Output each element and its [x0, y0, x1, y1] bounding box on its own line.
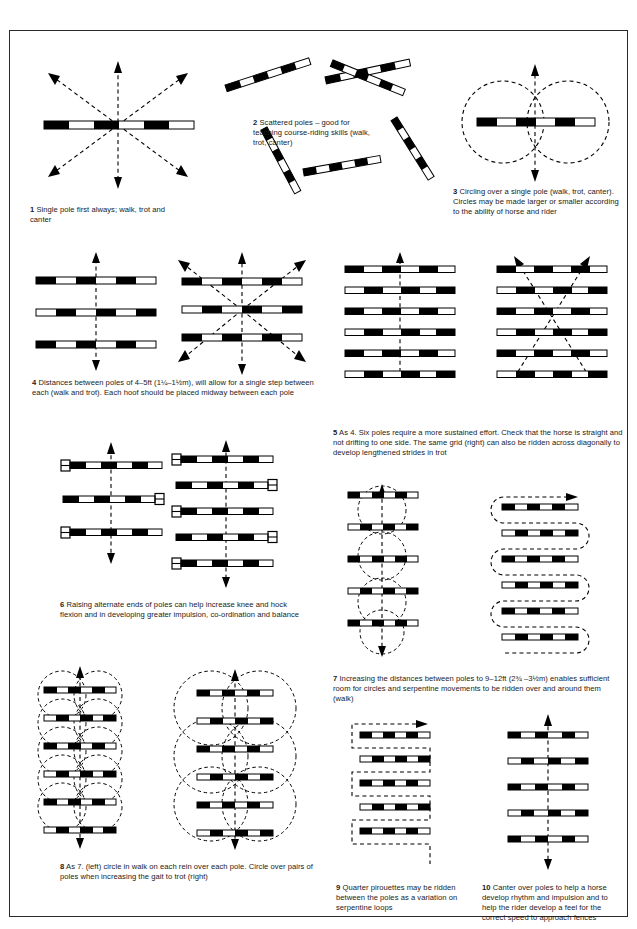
- pole-row-1: [502, 504, 578, 510]
- pole-row-3: [182, 334, 302, 341]
- figure-3-caption-text: Circling over a single pole (walk, trot,…: [453, 187, 619, 216]
- pole-row-4: [348, 588, 418, 594]
- page-rule-left: [9, 30, 10, 916]
- scattered-pole-5: [303, 155, 381, 175]
- pole-row-3: [345, 308, 455, 315]
- pole-row-3: [36, 341, 156, 348]
- pole-row-5: [502, 608, 578, 614]
- figure-6-caption-text: Raising alternate ends of poles can help…: [60, 600, 299, 619]
- figure-5-diagram-right: [492, 250, 617, 380]
- raised-pole-row-1: [61, 460, 162, 471]
- pole-row-3: [44, 743, 116, 749]
- pole-row-4: [508, 810, 588, 816]
- pole-row-1: [182, 278, 302, 285]
- center-line-arrow: [378, 484, 386, 657]
- pole-row-4: [197, 774, 273, 780]
- page-rule-top: [9, 30, 628, 31]
- pole-row-4: [497, 329, 607, 336]
- raised-pole-row-5: [172, 558, 273, 569]
- pole-row-1: [497, 266, 607, 273]
- figure-8-diagram-left: [22, 665, 152, 850]
- pole-row-2: [502, 530, 578, 536]
- pole-row-5: [345, 350, 455, 357]
- pole-row-4: [345, 329, 455, 336]
- scattered-pole-6: [391, 117, 434, 180]
- figure-7-caption: 7 Increasing the distances between poles…: [333, 674, 623, 704]
- pole-row-6: [345, 371, 455, 378]
- pole-row-6: [197, 830, 273, 836]
- pole-row-3: [197, 746, 273, 752]
- pole-row-2: [348, 524, 418, 530]
- pole-row-5: [197, 802, 273, 808]
- pole-row-2: [44, 715, 116, 721]
- pole-row-3: [360, 780, 430, 786]
- page-rule-right: [627, 30, 628, 916]
- pole-row-6: [502, 634, 578, 640]
- figure-5-number: 5: [333, 428, 337, 437]
- pole-row-5: [44, 799, 116, 805]
- figure-8-diagram-right: [155, 668, 315, 850]
- figure-7-number: 7: [333, 674, 337, 683]
- figure-4-diagram-left: [28, 252, 163, 372]
- pole-row-1: [197, 690, 273, 696]
- pole-row-5: [508, 836, 588, 842]
- figure-4-caption-text: Distances between poles of 4–5ft (1¼–1½m…: [32, 378, 314, 397]
- figure-9-number: 9: [336, 883, 340, 892]
- figure-1-caption: 1 Single pole first always; walk, trot a…: [30, 205, 180, 225]
- raised-pole-row-1: [172, 454, 273, 465]
- figure-2-caption-text: Scattered poles – good for teaching cour…: [253, 118, 370, 147]
- figure-4-caption: 4 Distances between poles of 4–5ft (1¼–1…: [32, 378, 322, 398]
- pole-row-2: [497, 287, 607, 294]
- figure-3-number: 3: [453, 187, 457, 196]
- pole-row-3: [348, 556, 418, 562]
- pole-row-2: [197, 718, 273, 724]
- figure-9-caption: 9 Quarter pirouettes may be ridden betwe…: [336, 883, 464, 913]
- pole-row-1: [44, 687, 116, 693]
- figure-8-caption: 8 As 7. (left) circle in walk on each re…: [60, 862, 322, 882]
- pole-row-6: [44, 827, 116, 833]
- figure-1-caption-text: Single pole first always; walk, trot and…: [30, 205, 165, 224]
- pole-row-2: [508, 758, 588, 764]
- pole-row-4: [360, 804, 430, 810]
- figure-2-number: 2: [253, 118, 257, 127]
- pole-row-5: [360, 828, 430, 834]
- pole-1: [477, 118, 595, 126]
- figure-2-caption: 2 Scattered poles – good for teaching co…: [253, 118, 381, 148]
- pole-row-1: [508, 732, 588, 738]
- pole-row-3: [508, 784, 588, 790]
- pole-row-1: [348, 492, 418, 498]
- raised-pole-row-2: [176, 480, 277, 491]
- pole-row-2: [182, 306, 302, 313]
- raised-pole-row-2: [63, 494, 164, 505]
- serpentine-track: [491, 493, 589, 653]
- figure-6-diagram-right: [168, 438, 288, 588]
- pole-row-3: [497, 308, 607, 315]
- figure-8-number: 8: [60, 862, 64, 871]
- pole-row-1: [345, 266, 455, 273]
- pole-row-5: [497, 350, 607, 357]
- figure-6-diagram-left: [55, 440, 180, 565]
- scattered-pole-1: [225, 58, 311, 92]
- diagonal-tracks: [514, 256, 590, 378]
- figure-7-caption-text: Increasing the distances between poles t…: [333, 674, 610, 703]
- pole-row-3: [502, 556, 578, 562]
- figure-7-diagram-left: [340, 482, 450, 657]
- figure-4-diagram-right: [170, 248, 320, 376]
- figure-10-caption: 10 Canter over poles to help a horse dev…: [482, 883, 622, 923]
- figure-3-caption: 3 Circling over a single pole (walk, tro…: [453, 187, 623, 217]
- figure-5-diagram-left: [340, 250, 460, 375]
- pole-row-5: [348, 620, 418, 626]
- pole-row-2: [345, 287, 455, 294]
- figure-3-diagram: [455, 58, 615, 183]
- diagram-page: 1 Single pole first always; walk, trot a…: [0, 0, 637, 929]
- pole-1: [44, 121, 194, 129]
- pole-row-6: [497, 371, 607, 378]
- figure-6-number: 6: [60, 600, 64, 609]
- figure-10-diagram: [490, 712, 610, 872]
- figure-10-number: 10: [482, 883, 491, 892]
- pole-row-2: [36, 309, 156, 316]
- pole-row-2: [360, 756, 430, 762]
- figure-1-number: 1: [30, 205, 34, 214]
- figure-8-caption-text: As 7. (left) circle in walk on each rein…: [60, 862, 313, 881]
- figure-9-diagram: [342, 712, 462, 872]
